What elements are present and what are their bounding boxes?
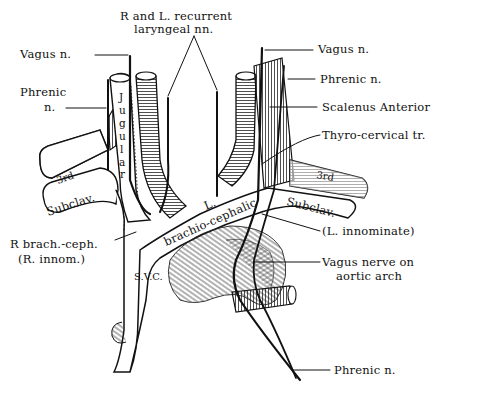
- label-vagus-aortic-line1: Vagus nerve on: [321, 255, 415, 269]
- left-common-carotid-artery: [218, 72, 256, 186]
- svg-text:g: g: [119, 117, 126, 129]
- label-svc: S.V.C.: [134, 271, 163, 282]
- label-recurrent-laryngeal-line2: laryngeal nn.: [134, 22, 213, 36]
- label-r-brach-ceph-line1: R brach.-ceph.: [10, 237, 98, 251]
- svg-text:J: J: [118, 91, 123, 103]
- label-phrenic-right-side: Phrenic n.: [320, 72, 382, 86]
- label-phrenic-left-side-line1: Phrenic: [20, 85, 66, 99]
- svg-text:a: a: [119, 156, 125, 168]
- label-vagus-left-side: Vagus n.: [19, 47, 71, 61]
- label-jugular: J u g u l a r: [118, 91, 126, 180]
- label-vagus-aortic-line2: aortic arch: [336, 269, 402, 283]
- label-phrenic-bottom: Phrenic n.: [334, 363, 396, 377]
- label-phrenic-left-side-line2: n.: [44, 100, 55, 114]
- label-l-innominate: (L. innominate): [322, 224, 415, 238]
- label-thyro-cervical: Thyro-cervical tr.: [322, 128, 426, 142]
- anatomy-diagram: R and L. recurrent laryngeal nn. Vagus n…: [0, 0, 479, 396]
- label-vagus-right-side: Vagus n.: [317, 42, 369, 56]
- label-scalenus-anterior: Scalenus Anterior: [322, 100, 430, 114]
- svg-text:u: u: [119, 130, 126, 142]
- label-recurrent-laryngeal-line1: R and L. recurrent: [120, 9, 232, 23]
- right-common-carotid-artery: [136, 72, 186, 218]
- svg-text:u: u: [119, 104, 126, 116]
- label-r-brach-ceph-line2: (R. innom.): [18, 252, 85, 266]
